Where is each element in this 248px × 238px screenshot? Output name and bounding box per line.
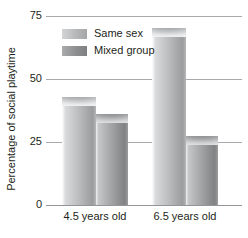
bar-6-5-mixed-group[interactable] [186,136,218,205]
bar-4-5-mixed-group[interactable] [96,114,128,205]
gridline-50 [46,79,242,80]
x-tick-label-6-5-years-old: 6.5 years old [136,210,234,222]
legend-swatch-mixed-group-icon [62,46,87,56]
bar-top-cap [152,28,186,37]
x-axis-tick-labels: 4.5 years old 6.5 years old [46,210,242,232]
legend-item-same-sex[interactable]: Same sex [62,28,155,39]
legend: Same sex Mixed group [62,28,155,56]
x-tick-label-4-5-years-old: 4.5 years old [46,210,144,222]
y-axis-tick-labels: 75 50 25 0 [0,16,42,205]
bar-6-5-same-sex[interactable] [152,28,186,205]
y-tick-label-25: 25 [2,135,42,147]
legend-swatch-same-sex-icon [62,29,87,39]
y-tick-label-75: 75 [2,9,42,21]
bar-4-5-same-sex[interactable] [62,97,96,205]
legend-label-same-sex: Same sex [94,28,143,39]
legend-item-mixed-group[interactable]: Mixed group [62,45,155,56]
gridline-0-baseline [46,205,242,206]
bar-top-cap [96,114,128,123]
bar-top-cap [186,136,218,145]
y-tick-label-0: 0 [2,198,42,210]
bar-top-cap [62,97,96,106]
legend-label-mixed-group: Mixed group [94,45,155,56]
bar-chart: Percentage of social playtime 75 50 25 0 [0,0,248,238]
gridline-75 [46,16,242,17]
y-tick-label-50: 50 [2,72,42,84]
